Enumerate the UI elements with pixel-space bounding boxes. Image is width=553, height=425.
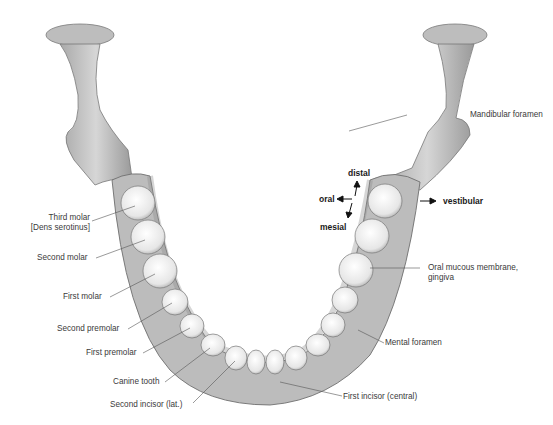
left-ramus [46, 24, 132, 185]
direction-mesial: mesial [320, 222, 346, 232]
label-text: Third molar [40, 213, 90, 223]
label-second-molar: Second molar [37, 253, 88, 263]
label-text: Oral mucous membrane, [428, 263, 518, 273]
label-first-molar: First molar [63, 292, 102, 302]
direction-distal: distal [348, 168, 370, 178]
label-second-incisor: Second incisor (lat.) [110, 400, 182, 410]
label-mandibular-foramen: Mandibular foramen [470, 110, 543, 120]
direction-vestibular: vestibular [443, 196, 483, 206]
label-oral-mucous-membrane: Oral mucous membrane, gingiva [428, 263, 518, 283]
label-first-premolar: First premolar [86, 348, 137, 358]
label-third-molar: Third molar [Dens serotinus] [40, 213, 90, 233]
right-ramus [380, 24, 487, 190]
label-text: [Dens serotinus] [28, 223, 90, 233]
label-mental-foramen: Mental foramen [385, 338, 442, 348]
label-first-incisor: First incisor (central) [343, 392, 417, 402]
label-text: gingiva [428, 273, 518, 283]
label-second-premolar: Second premolar [57, 324, 119, 334]
direction-oral: oral [319, 194, 335, 204]
label-canine-tooth: Canine tooth [113, 377, 159, 387]
